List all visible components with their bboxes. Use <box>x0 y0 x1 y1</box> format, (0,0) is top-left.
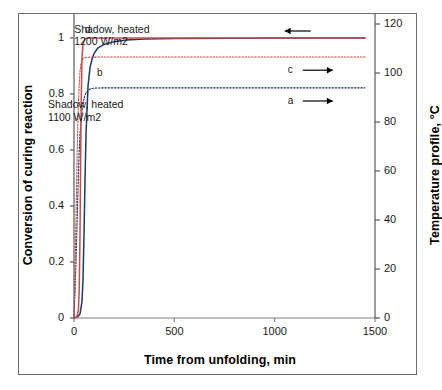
series-b <box>74 38 365 318</box>
x-tick-label-3: 1500 <box>352 325 398 337</box>
curve-label-d: d <box>85 24 91 35</box>
y-tick-label-left-5: 1 <box>30 31 64 43</box>
curve-label-c: c <box>288 64 293 75</box>
y-tick-label-right-5: 100 <box>384 66 418 78</box>
y-tick-label-left-4: 0.8 <box>30 87 64 99</box>
arrow-right-to-c-head <box>327 67 333 73</box>
series-d <box>74 38 365 318</box>
y-tick-label-left-3: 0.6 <box>30 143 64 155</box>
y-tick-label-left-0: 0 <box>30 311 64 323</box>
curve-label-b: b <box>97 67 103 78</box>
y-tick-label-right-4: 80 <box>384 115 418 127</box>
y-tick-label-left-2: 0.4 <box>30 199 64 211</box>
curve-label-a: a <box>288 95 294 106</box>
y-tick-label-right-1: 20 <box>384 262 418 274</box>
x-tick-label-2: 1000 <box>252 325 298 337</box>
y-tick-label-right-2: 40 <box>384 213 418 225</box>
series-c <box>74 57 365 318</box>
x-tick-label-1: 500 <box>151 325 197 337</box>
y-tick-label-left-1: 0.2 <box>30 255 64 267</box>
x-tick-label-0: 0 <box>51 325 97 337</box>
y-tick-label-right-3: 60 <box>384 164 418 176</box>
annotation-1100: Shadow, heated 1100 W/m2 <box>48 98 123 123</box>
y-tick-label-right-6: 120 <box>384 17 418 29</box>
y-tick-label-right-0: 0 <box>384 311 418 323</box>
y-axis-left-title: Conversion of curing reaction <box>21 70 35 280</box>
arrow-right-to-a-head <box>327 98 333 104</box>
arrow-left-to-d-head <box>285 28 291 34</box>
x-axis-title: Time from unfolding, min <box>60 353 380 367</box>
y-axis-right-title: Temperature profile, °C <box>428 70 442 280</box>
